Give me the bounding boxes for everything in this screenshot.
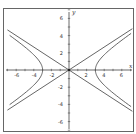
y-tick-label: -2 bbox=[58, 84, 63, 90]
x-tick-label: -2 bbox=[49, 72, 54, 78]
x-tick-label: 4 bbox=[102, 72, 105, 78]
x-tick-label: 2 bbox=[85, 72, 88, 78]
y-tick-label: 2 bbox=[60, 50, 63, 56]
y-tick-label: 4 bbox=[60, 33, 63, 39]
x-tick-label: -4 bbox=[32, 72, 37, 78]
origin-point bbox=[68, 69, 71, 72]
y-axis-label: y bbox=[71, 8, 76, 16]
hyperbola-plot: -6-4-2246642-2-4-6 x y bbox=[0, 0, 136, 134]
y-tick-label: -4 bbox=[58, 101, 63, 107]
x-tick-label: -6 bbox=[14, 72, 19, 78]
x-tick-label: 6 bbox=[120, 72, 123, 78]
y-tick-label: 6 bbox=[60, 15, 63, 21]
y-tick-label: -6 bbox=[58, 119, 63, 125]
